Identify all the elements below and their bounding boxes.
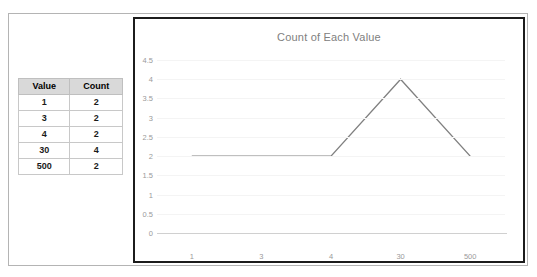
cell-value: 1 <box>19 95 70 111</box>
x-axis-tick-label: 500 <box>464 252 477 261</box>
x-axis-tick-label: 1 <box>190 252 194 261</box>
x-axis-line <box>157 233 507 234</box>
x-axis-tick-label: 4 <box>329 252 333 261</box>
cell-count: 2 <box>70 159 123 175</box>
gridline <box>157 118 505 119</box>
chart-title: Count of Each Value <box>135 31 523 43</box>
column-header-value: Value <box>19 79 70 95</box>
gridline <box>157 175 505 176</box>
gridline <box>157 195 505 196</box>
cell-value: 3 <box>19 111 70 127</box>
plot-area: 00.511.522.533.544.513430500 <box>157 60 505 233</box>
gridline <box>157 98 505 99</box>
gridline <box>157 137 505 138</box>
table-row: 12 <box>19 95 123 111</box>
gridline <box>157 156 505 157</box>
chart-object[interactable]: Count of Each Value 00.511.522.533.544.5… <box>133 17 525 263</box>
table-row: 32 <box>19 111 123 127</box>
y-axis-tick-label: 1.5 <box>143 171 153 180</box>
series-line-count <box>157 60 505 233</box>
table-row: 5002 <box>19 159 123 175</box>
cell-value: 30 <box>19 143 70 159</box>
y-axis-tick-label: 4 <box>149 75 153 84</box>
column-header-count: Count <box>70 79 123 95</box>
y-axis-tick-label: 2 <box>149 152 153 161</box>
chart-plot-frame: Count of Each Value 00.511.522.533.544.5… <box>135 19 523 261</box>
cell-value: 500 <box>19 159 70 175</box>
table-body: 1232423045002 <box>19 95 123 175</box>
y-axis-tick-label: 0.5 <box>143 209 153 218</box>
cell-count: 2 <box>70 95 123 111</box>
y-axis-tick-label: 3 <box>149 113 153 122</box>
cell-count: 2 <box>70 127 123 143</box>
y-axis-tick-label: 3.5 <box>143 94 153 103</box>
gridline <box>157 214 505 215</box>
gridline <box>157 79 505 80</box>
value-count-table: Value Count 1232423045002 <box>18 78 123 175</box>
gridline <box>157 60 505 61</box>
table-row: 304 <box>19 143 123 159</box>
x-axis-tick-label: 3 <box>259 252 263 261</box>
screenshot-root: Value Count 1232423045002 Count of Each … <box>0 0 537 277</box>
y-axis-tick-label: 4.5 <box>143 56 153 65</box>
cell-count: 2 <box>70 111 123 127</box>
y-axis-tick-label: 2.5 <box>143 132 153 141</box>
cell-value: 4 <box>19 127 70 143</box>
y-axis-tick-label: 1 <box>149 190 153 199</box>
y-axis-tick-label: 0 <box>149 229 153 238</box>
x-axis-tick-label: 30 <box>396 252 404 261</box>
cell-count: 4 <box>70 143 123 159</box>
table-header-row: Value Count <box>19 79 123 95</box>
table-row: 42 <box>19 127 123 143</box>
